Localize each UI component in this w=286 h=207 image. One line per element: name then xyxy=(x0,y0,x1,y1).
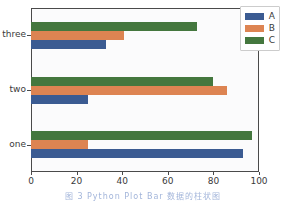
bar-three-B xyxy=(31,31,124,40)
chart-legend: ABC xyxy=(240,6,280,51)
legend-item-B[interactable]: B xyxy=(245,23,275,34)
x-axis-tick xyxy=(31,172,32,175)
y-axis-tick xyxy=(27,90,31,91)
bar-one-C xyxy=(31,131,252,140)
x-axis-tick-label: 20 xyxy=(62,176,92,187)
x-axis-tick xyxy=(77,172,78,175)
bar-one-B xyxy=(31,140,88,149)
x-axis-tick xyxy=(122,172,123,175)
x-axis-tick-label: 0 xyxy=(16,176,46,187)
figure-caption: 图 3 Python Plot Bar 数据的柱状图 xyxy=(0,190,286,201)
legend-swatch-C xyxy=(245,37,264,44)
legend-label-A: A xyxy=(269,12,275,21)
x-axis-tick-label: 80 xyxy=(198,176,228,187)
y-axis-tick-label-two: two xyxy=(0,84,26,95)
bar-two-A xyxy=(31,95,88,104)
x-axis-tick xyxy=(213,172,214,175)
bar-three-A xyxy=(31,40,106,49)
y-axis-tick xyxy=(27,35,31,36)
x-axis-tick-label: 40 xyxy=(107,176,137,187)
x-axis-tick xyxy=(168,172,169,175)
chart-figure: 020406080100 onetwothree ABC 图 3 Python … xyxy=(0,0,286,207)
legend-label-C: C xyxy=(269,36,275,45)
x-axis-tick xyxy=(259,172,260,175)
x-axis-tick-label: 100 xyxy=(244,176,274,187)
legend-swatch-A xyxy=(245,13,264,20)
legend-swatch-B xyxy=(245,25,264,32)
y-axis-tick-label-three: three xyxy=(0,29,26,40)
bar-three-C xyxy=(31,22,197,31)
bar-two-C xyxy=(31,77,213,86)
legend-label-B: B xyxy=(269,24,275,33)
bar-two-B xyxy=(31,86,227,95)
bar-one-A xyxy=(31,149,243,158)
y-axis-tick-label-one: one xyxy=(0,139,26,150)
legend-item-A[interactable]: A xyxy=(245,11,275,22)
x-axis-tick-label: 60 xyxy=(153,176,183,187)
legend-item-C[interactable]: C xyxy=(245,35,275,46)
y-axis-tick xyxy=(27,145,31,146)
